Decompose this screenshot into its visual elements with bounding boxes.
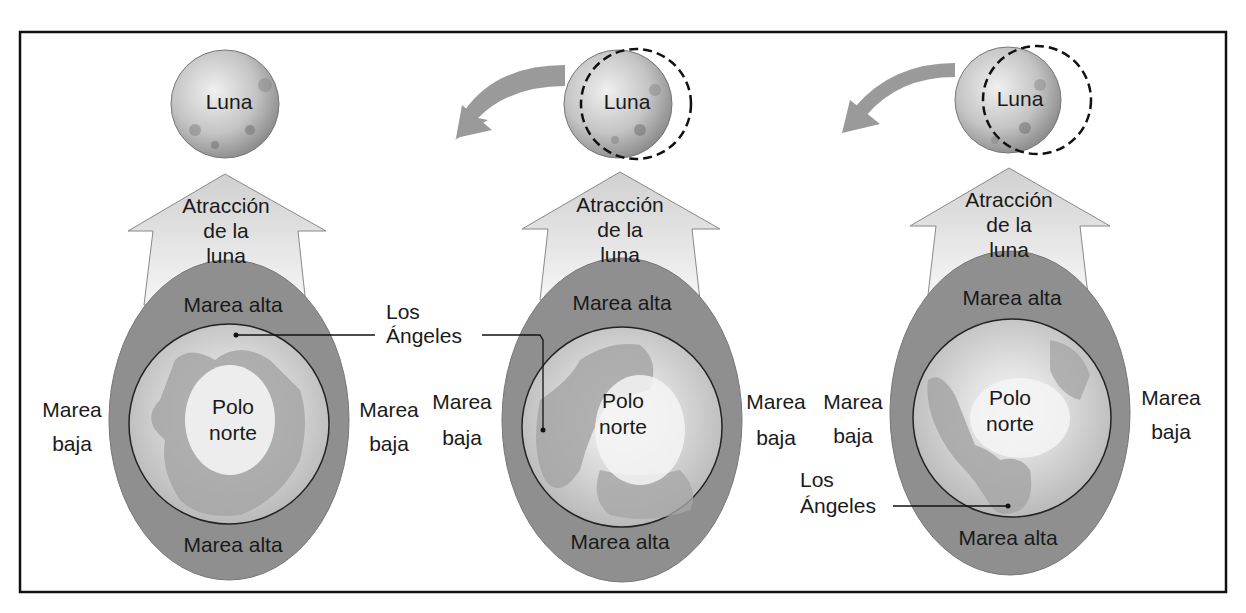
moon-label: Luna — [206, 90, 253, 114]
high-tide-top-label: Marea alta — [962, 286, 1061, 310]
attraction-label-line-3: luna — [600, 243, 640, 267]
attraction-label-line-1: Atracción — [965, 188, 1053, 212]
low-tide-right-label-2: baja — [369, 432, 409, 456]
low-tide-left-label-2: baja — [442, 426, 482, 450]
low-tide-left-label-1: Marea — [823, 390, 883, 414]
attraction-label-line-1: Atracción — [576, 193, 664, 217]
low-tide-left-label-1: Marea — [432, 390, 492, 414]
north-pole-label-1: Polo — [212, 395, 254, 419]
attraction-label-line-3: luna — [206, 244, 246, 268]
los-angeles-callout-line-1: Los — [800, 468, 834, 492]
attraction-label-line-2: de la — [597, 218, 643, 242]
los-angeles-callout-line-2: Ángeles — [800, 494, 876, 518]
moon-label: Luna — [997, 87, 1044, 111]
low-tide-right-label-2: baja — [756, 426, 796, 450]
los-angeles-callout-line-2: Ángeles — [386, 324, 462, 348]
high-tide-bottom-label: Marea alta — [570, 530, 669, 554]
attraction-label-line-1: Atracción — [182, 194, 270, 218]
low-tide-left-label-2: baja — [833, 424, 873, 448]
low-tide-right-label-1: Marea — [1141, 386, 1201, 410]
attraction-label-line-2: de la — [986, 213, 1032, 237]
attraction-label-line-2: de la — [203, 219, 249, 243]
high-tide-top-label: Marea alta — [572, 291, 671, 315]
high-tide-top-label: Marea alta — [183, 293, 282, 317]
high-tide-bottom-label: Marea alta — [958, 526, 1057, 550]
north-pole-label-2: norte — [209, 421, 257, 445]
low-tide-right-label-1: Marea — [746, 390, 806, 414]
low-tide-right-label-1: Marea — [359, 398, 419, 422]
low-tide-left-label-1: Marea — [42, 398, 102, 422]
north-pole-label-1: Polo — [602, 389, 644, 413]
low-tide-left-label-2: baja — [52, 432, 92, 456]
high-tide-bottom-label: Marea alta — [183, 533, 282, 557]
los-angeles-callout-line-1: Los — [386, 300, 420, 324]
low-tide-right-label-2: baja — [1151, 420, 1191, 444]
north-pole-label-1: Polo — [989, 386, 1031, 410]
north-pole-label-2: norte — [986, 412, 1034, 436]
attraction-label-line-3: luna — [989, 238, 1029, 262]
polar-ice — [185, 365, 275, 475]
tides-diagram: Luna Atracción de la luna Marea alta Mar… — [0, 0, 1246, 613]
moon-label: Luna — [604, 90, 651, 114]
north-pole-label-2: norte — [599, 415, 647, 439]
